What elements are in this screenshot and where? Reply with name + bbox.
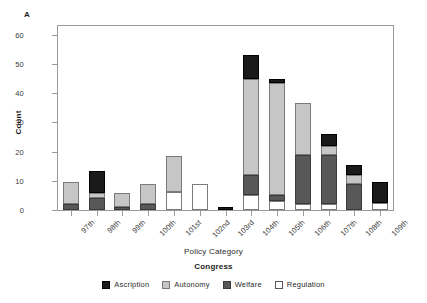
x-tick-mark	[226, 211, 227, 216]
legend-swatch-autonomy	[162, 281, 170, 289]
x-tick-mark	[148, 211, 149, 216]
x-tick-mark	[277, 211, 278, 216]
bar-99th[interactable]	[114, 193, 130, 211]
bar-segment-autonomy	[63, 182, 79, 204]
x-tick-label-100th: 100th	[158, 218, 178, 238]
x-tick-label-99th: 99th	[131, 218, 148, 235]
bar-segment-welfare	[114, 207, 130, 210]
bar-segment-ascription	[346, 165, 362, 175]
legend-swatch-ascription	[102, 281, 110, 289]
legend-item-ascription[interactable]: Ascription	[102, 280, 149, 289]
legend-item-welfare[interactable]: Welfare	[223, 280, 262, 289]
x-tick-label-109th: 109th	[390, 218, 410, 238]
x-tick-mark	[71, 211, 72, 216]
bar-segment-autonomy	[295, 103, 311, 154]
bar-segment-autonomy	[269, 83, 285, 195]
y-tick-mark	[52, 93, 57, 94]
x-tick-mark	[122, 211, 123, 216]
figure-panel-a: A 0102030405060 Count 97th98th99th100th1…	[0, 0, 427, 303]
bar-105th[interactable]	[269, 79, 285, 210]
y-axis-label: Count	[14, 93, 23, 153]
x-tick-label-108th: 108th	[364, 218, 384, 238]
y-tick-mark	[52, 35, 57, 36]
x-tick-label-104th: 104th	[261, 218, 281, 238]
bar-segment-ascription	[89, 171, 105, 193]
y-tick-mark	[52, 64, 57, 65]
bar-segment-ascription	[218, 207, 234, 210]
legend-label-autonomy: Autonomy	[174, 280, 209, 289]
bar-100th[interactable]	[140, 184, 156, 210]
bar-segment-welfare	[140, 204, 156, 210]
bar-segment-regulation	[243, 195, 259, 210]
bar-107th[interactable]	[321, 134, 337, 210]
x-tick-mark	[251, 211, 252, 216]
bar-segment-regulation	[295, 204, 311, 210]
y-tick-mark	[52, 122, 57, 123]
x-tick-label-97th: 97th	[79, 218, 96, 235]
y-tick-label: 50	[0, 59, 24, 68]
bar-segment-autonomy	[114, 193, 130, 208]
bars-container	[58, 26, 393, 210]
bar-segment-welfare	[346, 184, 362, 210]
bar-102nd[interactable]	[192, 184, 208, 210]
bar-106th[interactable]	[295, 103, 311, 210]
x-tick-label-107th: 107th	[338, 218, 358, 238]
x-tick-mark	[303, 211, 304, 216]
x-tick-label-106th: 106th	[312, 218, 332, 238]
bar-98th[interactable]	[89, 171, 105, 210]
x-tick-mark	[200, 211, 201, 216]
legend: AscriptionAutonomyWelfareRegulation	[0, 280, 427, 289]
y-tick-label: 0	[0, 206, 24, 215]
x-tick-mark	[354, 211, 355, 216]
y-tick-label: 60	[0, 30, 24, 39]
bar-segment-autonomy	[346, 175, 362, 184]
bar-103rd[interactable]	[218, 207, 234, 210]
legend-item-regulation[interactable]: Regulation	[275, 280, 325, 289]
legend-label-ascription: Ascription	[114, 280, 149, 289]
bar-segment-welfare	[243, 175, 259, 195]
legend-title: Policy Category	[0, 247, 427, 256]
bar-97th[interactable]	[63, 182, 79, 210]
legend-label-welfare: Welfare	[235, 280, 262, 289]
x-tick-label-101st: 101st	[183, 218, 203, 238]
x-tick-mark	[97, 211, 98, 216]
bar-segment-autonomy	[140, 184, 156, 204]
bar-109th[interactable]	[372, 182, 388, 210]
bar-segment-ascription	[243, 55, 259, 78]
bar-segment-regulation	[166, 192, 182, 210]
bar-108th[interactable]	[346, 165, 362, 210]
bar-segment-regulation	[321, 204, 337, 210]
y-tick-label: 10	[0, 176, 24, 185]
x-tick-label-98th: 98th	[105, 218, 122, 235]
y-axis: 0102030405060	[0, 0, 57, 303]
bar-segment-autonomy	[166, 156, 182, 193]
legend-item-autonomy[interactable]: Autonomy	[162, 280, 209, 289]
bar-segment-welfare	[63, 204, 79, 210]
bar-104th[interactable]	[243, 55, 259, 210]
x-axis-label: Congress	[0, 262, 427, 271]
bar-segment-regulation	[269, 201, 285, 210]
legend-swatch-welfare	[223, 281, 231, 289]
bar-segment-welfare	[89, 198, 105, 210]
y-tick-mark	[52, 210, 57, 211]
y-tick-mark	[52, 181, 57, 182]
bar-segment-ascription	[321, 134, 337, 146]
x-tick-mark	[174, 211, 175, 216]
bar-segment-regulation	[372, 203, 388, 210]
legend-label-regulation: Regulation	[287, 280, 325, 289]
legend-swatch-regulation	[275, 281, 283, 289]
x-tick-mark	[380, 211, 381, 216]
x-tick-label-102nd: 102nd	[210, 218, 231, 239]
bar-segment-ascription	[372, 182, 388, 202]
x-tick-label-105th: 105th	[287, 218, 307, 238]
bar-segment-welfare	[295, 155, 311, 205]
bar-segment-autonomy	[243, 79, 259, 175]
bar-segment-autonomy	[321, 146, 337, 155]
bar-segment-welfare	[321, 155, 337, 205]
bar-segment-regulation	[192, 184, 208, 210]
x-tick-label-103rd: 103rd	[235, 218, 255, 238]
bar-101st[interactable]	[166, 156, 182, 210]
x-tick-mark	[329, 211, 330, 216]
y-tick-mark	[52, 152, 57, 153]
